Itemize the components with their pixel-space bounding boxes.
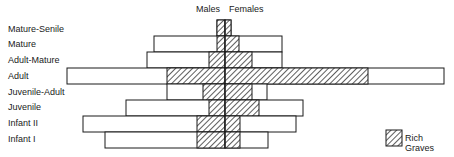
bar-males-rich-graves bbox=[197, 116, 225, 132]
category-label: Mature-Senile bbox=[8, 24, 64, 34]
bar-males-rich-graves bbox=[209, 52, 225, 68]
population-pyramid-chart bbox=[0, 0, 454, 157]
category-label: Infant I bbox=[8, 134, 36, 144]
category-label: Juvenile-Adult bbox=[8, 87, 65, 97]
bar-females-rich-graves bbox=[225, 20, 231, 36]
bar-females-rich-graves bbox=[225, 84, 252, 100]
category-label: Infant II bbox=[8, 118, 38, 128]
bar-males-rich-graves bbox=[217, 36, 225, 52]
bar-females-rich-graves bbox=[225, 116, 240, 132]
bar-females-rich-graves bbox=[225, 52, 252, 68]
header-females: Females bbox=[229, 4, 264, 14]
bar-males-rich-graves bbox=[167, 68, 225, 84]
category-label: Adult-Mature bbox=[8, 55, 60, 65]
bar-females-rich-graves bbox=[225, 100, 259, 116]
bar-males-rich-graves bbox=[197, 132, 225, 148]
bar-females-rich-graves bbox=[225, 132, 240, 148]
bar-females-rich-graves bbox=[225, 68, 368, 84]
legend-swatch-rich-graves bbox=[386, 130, 402, 146]
legend-label-rich-graves: Rich Graves bbox=[405, 133, 454, 153]
bars-group bbox=[67, 20, 444, 148]
category-label: Juvenile bbox=[8, 102, 41, 112]
legend bbox=[386, 130, 402, 146]
category-label: Adult bbox=[8, 71, 29, 81]
bar-males-rich-graves bbox=[209, 100, 225, 116]
bar-males-rich-graves bbox=[203, 84, 225, 100]
bar-males-total bbox=[154, 36, 225, 52]
category-label: Mature bbox=[8, 39, 36, 49]
header-males: Males bbox=[196, 4, 220, 14]
bar-females-rich-graves bbox=[225, 36, 239, 52]
bar-males-rich-graves bbox=[217, 20, 225, 36]
